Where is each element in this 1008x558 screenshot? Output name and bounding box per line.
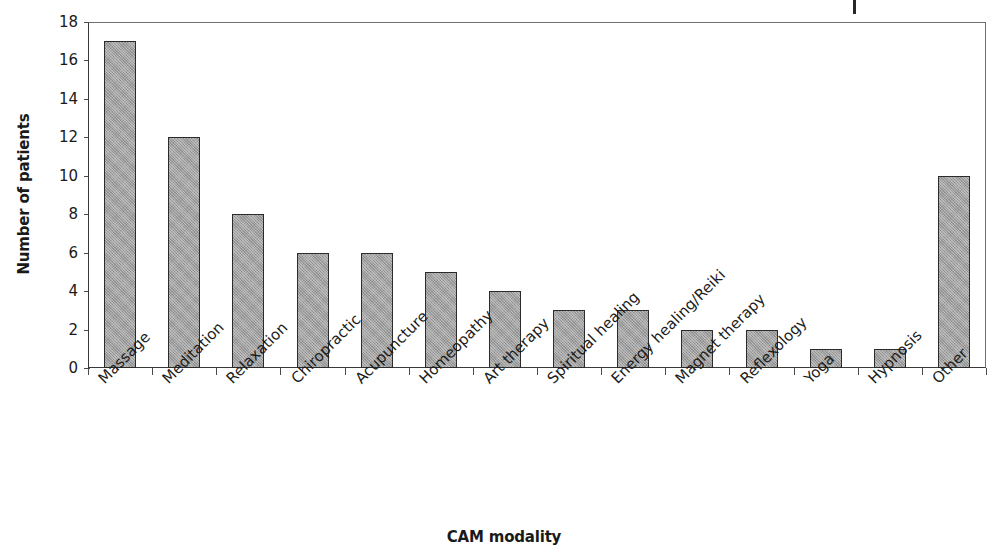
scan-artifact-mark (853, 0, 856, 14)
x-tick-mark (986, 368, 987, 375)
y-tick-label: 0 (38, 361, 78, 376)
y-tick-label: 2 (38, 323, 78, 338)
x-tick-mark (729, 368, 730, 375)
x-tick-mark (280, 368, 281, 375)
bar (168, 137, 200, 368)
bar (938, 176, 970, 368)
x-tick-mark (665, 368, 666, 375)
x-tick-mark (152, 368, 153, 375)
bar (104, 41, 136, 368)
x-tick-mark (216, 368, 217, 375)
y-tick-label: 14 (38, 92, 78, 107)
x-tick-mark (345, 368, 346, 375)
y-tick-mark (84, 368, 90, 369)
y-tick-label: 6 (38, 246, 78, 261)
x-tick-mark (537, 368, 538, 375)
y-tick-label: 4 (38, 284, 78, 299)
bar-chart: Number of patients 024681012141618 Massa… (0, 0, 1008, 558)
x-tick-mark (409, 368, 410, 375)
x-tick-mark (922, 368, 923, 375)
y-axis-title: Number of patients (15, 94, 33, 294)
x-axis-title: CAM modality (0, 528, 1008, 546)
y-tick-label: 10 (38, 169, 78, 184)
x-tick-mark (88, 368, 89, 375)
x-tick-mark (858, 368, 859, 375)
x-tick-mark (473, 368, 474, 375)
y-tick-label: 16 (38, 53, 78, 68)
x-tick-mark (601, 368, 602, 375)
y-tick-label: 18 (38, 15, 78, 30)
y-tick-label: 8 (38, 207, 78, 222)
y-tick-label: 12 (38, 130, 78, 145)
x-tick-mark (794, 368, 795, 375)
